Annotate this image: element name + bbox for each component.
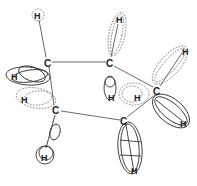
molecule-diagram: C C C C C H H H H H H H H H H <box>0 0 197 186</box>
bond-c3-h3 <box>160 53 182 86</box>
carbon-atom: C <box>52 105 59 116</box>
hydrogen-labels: H H H H H H H H H H <box>11 11 189 176</box>
carbon-atom: C <box>106 58 113 69</box>
carbon-atom: C <box>44 58 51 69</box>
hydrogen-atom: H <box>182 47 189 57</box>
hydrogen-atom: H <box>131 166 138 176</box>
orbital-lobes <box>5 9 195 175</box>
bond-c4-c5 <box>61 111 120 120</box>
bonds <box>39 20 182 120</box>
carbon-atom: C <box>153 86 160 97</box>
carbon-atom: C <box>120 116 127 127</box>
lobe-h10-axis <box>126 125 134 172</box>
hydrogen-atom: H <box>11 72 18 82</box>
lobe-h10-band2 <box>120 155 141 156</box>
lobe-h6-top <box>105 77 115 87</box>
hydrogen-atom: H <box>134 93 141 103</box>
hydrogen-atom: H <box>21 95 28 105</box>
bond-c1-c4 <box>49 67 54 105</box>
hydrogen-atom: H <box>34 11 41 21</box>
lobe-h9-axis <box>46 115 55 148</box>
hydrogen-atom: H <box>108 93 115 103</box>
bond-c2-c3 <box>114 66 153 87</box>
bond-c2-h2 <box>111 24 118 57</box>
lobe-h5-inner <box>23 90 52 106</box>
bond-c1-h1 <box>39 20 46 57</box>
hydrogen-atom: H <box>41 153 48 163</box>
carbon-labels: C C C C C <box>44 58 160 127</box>
hydrogen-atom: H <box>180 119 187 129</box>
hydrogen-atom: H <box>116 15 123 25</box>
bond-c3-c5 <box>127 95 155 117</box>
